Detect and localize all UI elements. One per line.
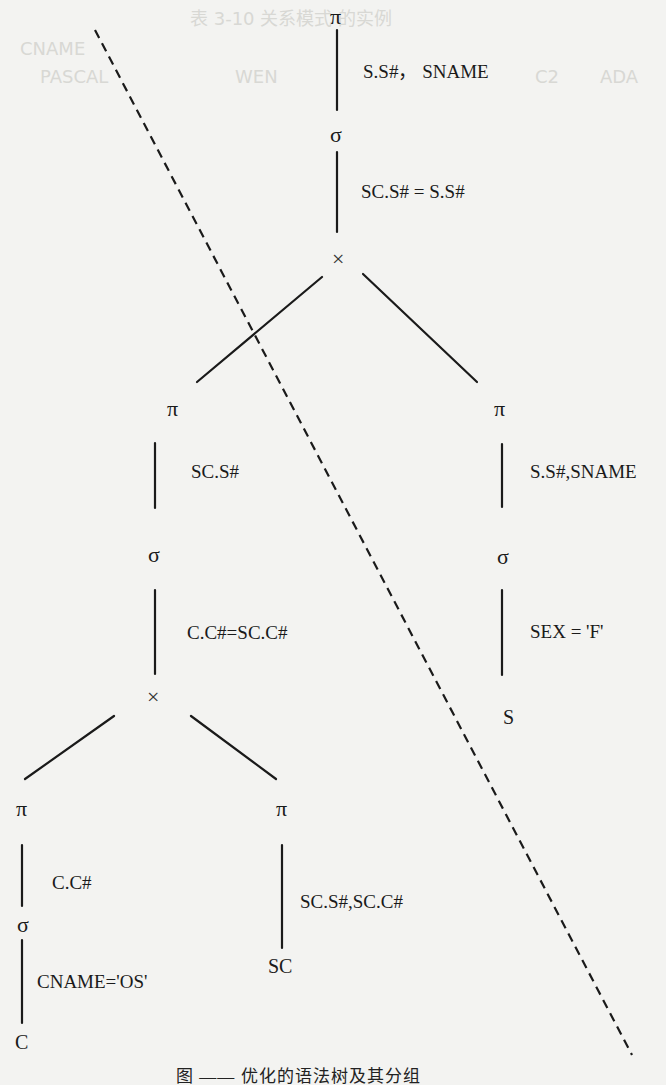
root-projection-attrs: S.S#， SNAME — [363, 62, 489, 81]
lr-projection-op: π — [276, 798, 287, 820]
right-selection-cond: SEX = 'F' — [530, 622, 604, 641]
lr-projection-attrs: SC.S#,SC.C# — [300, 892, 403, 911]
root-selection-cond: SC.S# = S.S# — [361, 182, 465, 201]
right-selection-op: σ — [497, 546, 509, 568]
left-projection-op: π — [167, 398, 178, 420]
relation-s: S — [503, 707, 514, 727]
root-projection-op: π — [330, 6, 341, 28]
ll-projection-attrs: C.C# — [52, 873, 92, 892]
root-selection-op: σ — [330, 124, 342, 146]
left-projection-attrs: SC.S# — [191, 462, 239, 481]
left-selection-cond: C.C#=SC.C# — [187, 623, 287, 642]
root-join-op: × — [332, 248, 344, 270]
right-projection-op: π — [494, 398, 505, 420]
left-selection-op: σ — [148, 544, 160, 566]
query-tree-figure: 表 3-10 关系模式 的实例 CNAME PASCAL WEN C2 ADA — [0, 0, 666, 1085]
ll-projection-op: π — [16, 798, 27, 820]
tree-edges — [0, 0, 666, 1085]
edge-join-left — [197, 277, 322, 382]
ll-selection-op: σ — [17, 914, 29, 936]
relation-c: C — [15, 1032, 28, 1052]
edge-leftjoin-right — [191, 716, 276, 779]
figure-caption: 图 —— 优化的语法树及其分组 — [176, 1068, 421, 1085]
relation-sc: SC — [268, 956, 292, 976]
right-projection-attrs: S.S#,SNAME — [530, 462, 637, 481]
left-join-op: × — [147, 686, 159, 708]
edge-leftjoin-left — [25, 716, 114, 779]
edge-join-right — [363, 274, 477, 382]
ll-selection-cond: CNAME='OS' — [37, 972, 147, 991]
